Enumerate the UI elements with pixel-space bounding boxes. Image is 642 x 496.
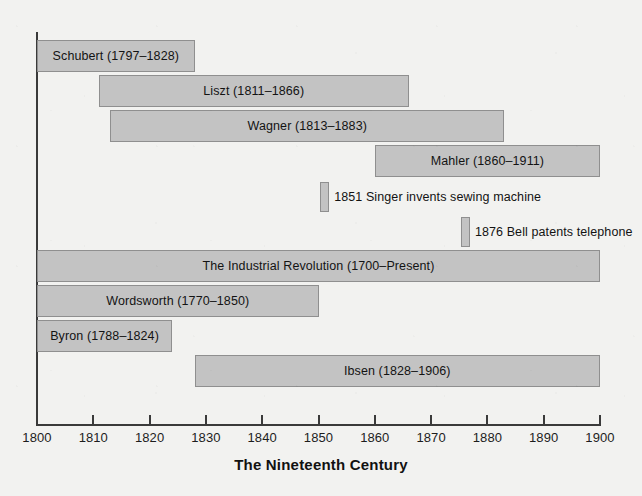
timeline-event: 1876 Bell patents telephone bbox=[461, 216, 633, 248]
y-axis-line bbox=[36, 32, 38, 424]
timeline-event-label: 1876 Bell patents telephone bbox=[475, 225, 633, 239]
timeline-bar-label: Mahler (1860–1911) bbox=[431, 154, 544, 168]
timeline-bar: Liszt (1811–1866) bbox=[99, 75, 409, 107]
timeline-bar-label: Schubert (1797–1828) bbox=[53, 49, 179, 63]
x-tick-1870 bbox=[430, 415, 432, 424]
timeline-bar: Wordsworth (1770–1850) bbox=[37, 285, 319, 317]
timeline-bar: Byron (1788–1824) bbox=[37, 320, 172, 352]
timeline-bar-label: Byron (1788–1824) bbox=[50, 329, 159, 343]
x-tick-label-1850: 1850 bbox=[296, 430, 342, 445]
timeline-event: 1851 Singer invents sewing machine bbox=[320, 181, 541, 213]
x-tick-label-1900: 1900 bbox=[577, 430, 623, 445]
x-tick-1820 bbox=[149, 415, 151, 424]
x-tick-1900 bbox=[599, 415, 601, 424]
x-tick-1880 bbox=[486, 415, 488, 424]
timeline-event-label: 1851 Singer invents sewing machine bbox=[334, 190, 541, 204]
timeline-bar: The Industrial Revolution (1700–Present) bbox=[37, 250, 600, 282]
event-marker-icon bbox=[320, 182, 329, 212]
x-tick-label-1830: 1830 bbox=[183, 430, 229, 445]
timeline-bar-label: Liszt (1811–1866) bbox=[203, 84, 304, 98]
x-tick-1800 bbox=[36, 415, 38, 424]
x-tick-label-1870: 1870 bbox=[408, 430, 454, 445]
x-tick-label-1880: 1880 bbox=[464, 430, 510, 445]
timeline-bar: Wagner (1813–1883) bbox=[110, 110, 504, 142]
x-axis-line bbox=[36, 424, 601, 426]
timeline-bar-label: Wordsworth (1770–1850) bbox=[106, 294, 249, 308]
timeline-bar-label: Wagner (1813–1883) bbox=[247, 119, 366, 133]
timeline-chart: 1800181018201830184018501860187018801890… bbox=[0, 0, 642, 496]
x-axis-title: The Nineteenth Century bbox=[0, 456, 642, 473]
x-tick-1860 bbox=[374, 415, 376, 424]
x-tick-1890 bbox=[543, 415, 545, 424]
x-tick-label-1800: 1800 bbox=[14, 430, 60, 445]
timeline-bar: Mahler (1860–1911) bbox=[375, 145, 600, 177]
x-tick-label-1820: 1820 bbox=[127, 430, 173, 445]
x-tick-label-1890: 1890 bbox=[521, 430, 567, 445]
x-tick-1850 bbox=[318, 415, 320, 424]
event-marker-icon bbox=[461, 217, 470, 247]
x-tick-label-1840: 1840 bbox=[239, 430, 285, 445]
timeline-bar-label: The Industrial Revolution (1700–Present) bbox=[203, 259, 435, 273]
x-tick-1810 bbox=[92, 415, 94, 424]
timeline-bar-label: Ibsen (1828–1906) bbox=[344, 364, 451, 378]
x-tick-1830 bbox=[205, 415, 207, 424]
x-tick-label-1860: 1860 bbox=[352, 430, 398, 445]
timeline-bar: Schubert (1797–1828) bbox=[37, 40, 195, 72]
x-tick-label-1810: 1810 bbox=[70, 430, 116, 445]
timeline-bar: Ibsen (1828–1906) bbox=[195, 355, 600, 387]
plot-area: 1800181018201830184018501860187018801890… bbox=[0, 0, 642, 496]
x-tick-1840 bbox=[261, 415, 263, 424]
